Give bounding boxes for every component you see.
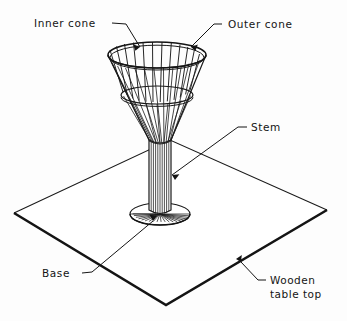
- diagram-canvas: Inner cone Outer cone Stem Base Wooden t…: [0, 0, 347, 321]
- label-wooden-table-top-line2: table top: [270, 288, 322, 300]
- leader-outer-cone: [191, 24, 222, 47]
- label-base: Base: [42, 267, 70, 279]
- label-outer-cone: Outer cone: [228, 18, 292, 30]
- label-stem: Stem: [251, 121, 281, 133]
- inner-rim-ellipse: [110, 45, 204, 70]
- label-inner-cone: Inner cone: [34, 17, 96, 29]
- label-wooden-table-top-line1: Wooden: [270, 274, 315, 286]
- cone-apparatus-diagram: Inner cone Outer cone Stem Base Wooden t…: [0, 0, 347, 321]
- outer-rim-ellipse: [108, 42, 206, 68]
- stem-shape: [149, 140, 171, 214]
- leader-wooden-table-top: [241, 262, 266, 280]
